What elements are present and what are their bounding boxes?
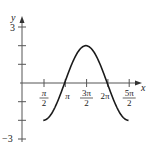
x-axis xyxy=(20,79,142,87)
svg-text:3π: 3π xyxy=(82,88,92,98)
svg-text:π: π xyxy=(42,88,47,98)
svg-text:5π: 5π xyxy=(125,88,135,98)
y-tick-label-neg3: −3 xyxy=(2,133,13,144)
svg-text:2: 2 xyxy=(84,98,89,108)
x-tick-label-5pi-over-2: 5π 2 xyxy=(123,88,136,108)
y-axis-arrow-icon xyxy=(20,16,25,23)
x-tick-label-pi: π xyxy=(65,91,70,101)
x-tick-label-3pi-over-2: 3π 2 xyxy=(80,88,93,108)
svg-text:2: 2 xyxy=(42,98,47,108)
chart-canvas: y 3 −3 x π 2 π 3π 2 2π 5π 2 xyxy=(0,0,148,144)
y-tick-label-3: 3 xyxy=(10,22,15,33)
x-tick-label-pi-over-2: π 2 xyxy=(40,88,49,108)
svg-text:2: 2 xyxy=(127,98,132,108)
x-tick-label-2pi: 2π xyxy=(100,91,110,101)
x-axis-label: x xyxy=(140,82,146,93)
y-axis xyxy=(18,16,26,142)
